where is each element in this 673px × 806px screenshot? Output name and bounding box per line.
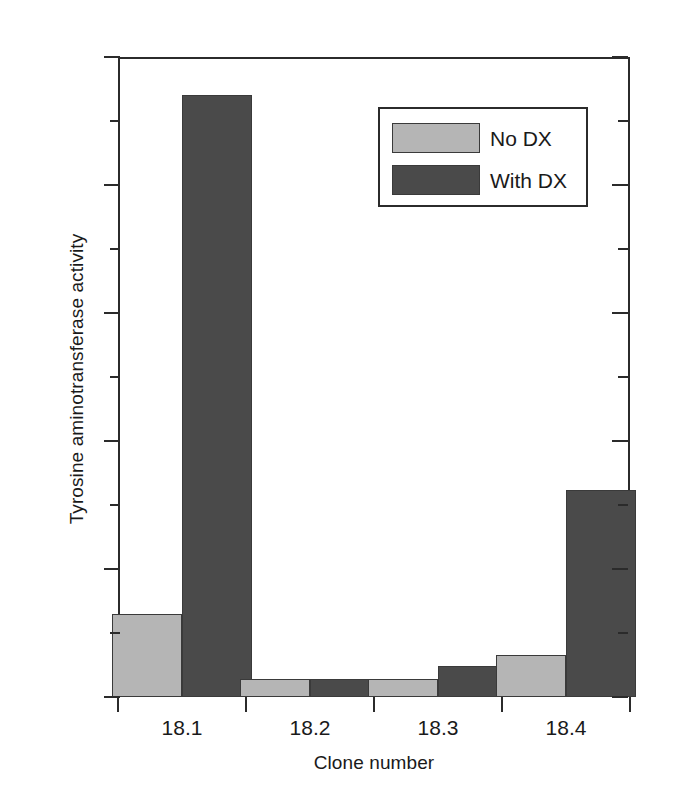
x-tick bbox=[501, 697, 503, 712]
y-tick-major bbox=[104, 440, 120, 442]
legend-swatch-no-dx bbox=[392, 123, 480, 153]
y-tick-major-right bbox=[612, 440, 628, 442]
x-tick bbox=[629, 697, 631, 712]
bar-18-4-no-dx bbox=[496, 655, 566, 697]
bar-18-1-no-dx bbox=[112, 614, 182, 697]
y-tick-major-right bbox=[612, 56, 628, 58]
y-tick-minor bbox=[110, 120, 120, 122]
y-tick-major-right bbox=[612, 184, 628, 186]
y-tick-minor bbox=[110, 248, 120, 250]
y-tick-minor-right bbox=[618, 504, 628, 506]
legend-label-no-dx: No DX bbox=[490, 128, 552, 149]
x-tick-label: 18.3 bbox=[368, 717, 508, 738]
legend: No DX With DX bbox=[378, 107, 588, 207]
x-tick bbox=[117, 697, 119, 712]
y-tick-minor bbox=[110, 376, 120, 378]
y-tick-major bbox=[104, 56, 120, 58]
y-tick-major-right bbox=[612, 312, 628, 314]
y-tick-major-right bbox=[612, 696, 628, 698]
y-tick-major bbox=[104, 312, 120, 314]
x-tick bbox=[245, 697, 247, 712]
bar-18-2-no-dx bbox=[240, 679, 310, 697]
y-tick-major bbox=[104, 184, 120, 186]
legend-item-with-dx: With DX bbox=[392, 161, 574, 199]
x-tick bbox=[373, 697, 375, 712]
legend-item-no-dx: No DX bbox=[392, 119, 574, 157]
x-tick-label: 18.4 bbox=[496, 717, 636, 738]
y-axis-title: Tyrosine aminotransferase activity bbox=[66, 169, 88, 589]
bar-18-4-with-dx bbox=[566, 490, 636, 697]
y-tick-minor-right bbox=[618, 376, 628, 378]
y-tick-minor bbox=[110, 632, 120, 634]
y-tick-minor-right bbox=[618, 248, 628, 250]
y-tick-minor-right bbox=[618, 632, 628, 634]
y-tick-minor-right bbox=[618, 120, 628, 122]
x-tick-label: 18.2 bbox=[240, 717, 380, 738]
bar-chart-figure: Tyrosine aminotransferase activity 01020… bbox=[0, 0, 673, 806]
x-axis-title: Clone number bbox=[118, 752, 630, 774]
bar-18-1-with-dx bbox=[182, 95, 252, 697]
legend-label-with-dx: With DX bbox=[490, 170, 567, 191]
y-tick-major bbox=[104, 568, 120, 570]
y-tick-major-right bbox=[612, 568, 628, 570]
bar-18-3-no-dx bbox=[368, 679, 438, 697]
legend-swatch-with-dx bbox=[392, 165, 480, 195]
y-tick-minor bbox=[110, 504, 120, 506]
x-tick-label: 18.1 bbox=[112, 717, 252, 738]
